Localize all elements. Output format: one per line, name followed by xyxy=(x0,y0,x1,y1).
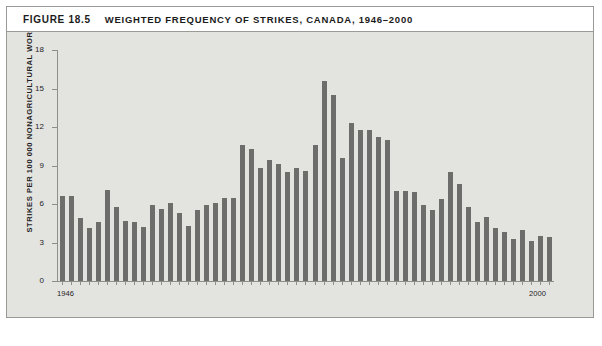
bar xyxy=(385,140,390,281)
bar xyxy=(132,222,137,281)
x-axis-tick xyxy=(414,282,415,285)
x-axis-tick xyxy=(143,282,144,285)
bar xyxy=(484,217,489,281)
x-axis-tick xyxy=(170,282,171,285)
x-axis-tick xyxy=(152,282,153,285)
y-axis-tick: 0 xyxy=(52,281,57,282)
x-axis-tick xyxy=(197,282,198,285)
bar xyxy=(87,228,92,281)
x-axis-tick xyxy=(134,282,135,285)
x-axis-tick xyxy=(522,282,523,285)
chart-panel: STRIKES PER 100 000 NONAGRICULTURAL WORK… xyxy=(7,32,593,317)
x-axis-tick xyxy=(504,282,505,285)
bar xyxy=(294,168,299,281)
x-axis-tick xyxy=(405,282,406,285)
bar xyxy=(150,205,155,281)
y-axis-tick: 12 xyxy=(52,127,57,128)
bar xyxy=(529,241,534,281)
x-axis-tick xyxy=(116,282,117,285)
x-axis-tick xyxy=(468,282,469,285)
bar xyxy=(78,218,83,281)
bar xyxy=(547,237,552,281)
bar xyxy=(276,164,281,281)
y-axis-tick: 3 xyxy=(52,243,57,244)
bar xyxy=(249,149,254,281)
y-axis-tick: 6 xyxy=(52,204,57,205)
x-axis-tick xyxy=(296,282,297,285)
bar xyxy=(96,222,101,281)
bar xyxy=(285,172,290,281)
bar xyxy=(105,190,110,281)
x-axis-tick xyxy=(98,282,99,285)
x-axis-tick xyxy=(549,282,550,285)
x-axis-tick xyxy=(531,282,532,285)
bar xyxy=(168,203,173,281)
y-axis-tick-label: 9 xyxy=(24,161,44,170)
bar xyxy=(123,221,128,281)
bar xyxy=(475,222,480,281)
bar xyxy=(448,172,453,281)
bar xyxy=(358,130,363,281)
x-axis-tick xyxy=(260,282,261,285)
y-axis-tick-label: 12 xyxy=(24,122,44,131)
x-axis-tick xyxy=(378,282,379,285)
x-axis-tick xyxy=(477,282,478,285)
x-axis-tick xyxy=(278,282,279,285)
bar xyxy=(349,123,354,281)
bar xyxy=(394,191,399,281)
x-axis-tick xyxy=(188,282,189,285)
x-axis-tick xyxy=(215,282,216,285)
y-axis-tick-label: 15 xyxy=(24,84,44,93)
x-axis-tick xyxy=(324,282,325,285)
x-axis-tick xyxy=(233,282,234,285)
bar xyxy=(258,168,263,281)
bar xyxy=(538,236,543,281)
x-axis-tick xyxy=(423,282,424,285)
figure-number: FIGURE 18.5 xyxy=(23,14,91,25)
x-axis-tick xyxy=(369,282,370,285)
x-axis-tick xyxy=(89,282,90,285)
bar xyxy=(502,232,507,281)
y-axis-tick: 9 xyxy=(52,166,57,167)
x-axis-tick xyxy=(342,282,343,285)
x-axis-tick xyxy=(450,282,451,285)
page-title: WEIGHTED FREQUENCY OF STRIKES, CANADA, 1… xyxy=(105,14,413,25)
y-axis-tick: 18 xyxy=(52,50,57,51)
bar xyxy=(177,213,182,281)
figure-container: FIGURE 18.5 WEIGHTED FREQUENCY OF STRIKE… xyxy=(0,0,602,346)
plot-area: 0369121518 1946 2000 YEAR xyxy=(57,50,553,281)
bar xyxy=(204,205,209,281)
bar xyxy=(114,207,119,281)
bar-series xyxy=(58,50,554,281)
bar xyxy=(430,210,435,281)
x-axis-tick xyxy=(269,282,270,285)
x-axis-tick xyxy=(351,282,352,285)
bar xyxy=(60,196,65,281)
x-axis-tick xyxy=(513,282,514,285)
x-axis-tick xyxy=(206,282,207,285)
bar xyxy=(421,205,426,281)
bar xyxy=(367,130,372,281)
x-axis-title: YEAR xyxy=(57,316,553,317)
x-axis-tick xyxy=(125,282,126,285)
x-axis-tick xyxy=(333,282,334,285)
bar xyxy=(222,198,227,281)
x-axis-tick xyxy=(459,282,460,285)
bar xyxy=(213,203,218,281)
bar xyxy=(159,209,164,281)
x-axis-tick xyxy=(495,282,496,285)
bar xyxy=(403,191,408,281)
x-axis-tick xyxy=(387,282,388,285)
x-axis-tick xyxy=(107,282,108,285)
bar xyxy=(141,227,146,281)
x-axis-tick xyxy=(224,282,225,285)
x-axis-tick xyxy=(242,282,243,285)
x-axis-tick xyxy=(62,282,63,285)
bar xyxy=(69,196,74,281)
bar xyxy=(267,160,272,281)
y-axis-tick-label: 3 xyxy=(24,238,44,247)
x-axis-tick xyxy=(287,282,288,285)
bar xyxy=(195,210,200,281)
x-axis-tick xyxy=(486,282,487,285)
x-axis-tick xyxy=(315,282,316,285)
